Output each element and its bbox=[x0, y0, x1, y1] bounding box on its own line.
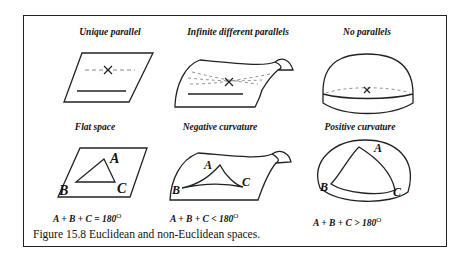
vertex-c-negative: C bbox=[242, 175, 251, 189]
equation-negative: A + B + C < 180O bbox=[170, 212, 238, 224]
vertex-a-flat: A bbox=[109, 151, 119, 166]
degree-symbol: O bbox=[376, 216, 381, 224]
negative-curvature-shape bbox=[170, 151, 291, 200]
degree-symbol: O bbox=[116, 212, 121, 220]
equation-flat-text: A + B + C = 180 bbox=[53, 214, 116, 224]
figure-caption: Figure 15.8 Euclidean and non-Euclidean … bbox=[33, 228, 260, 240]
degree-symbol: O bbox=[233, 212, 238, 220]
saddle-shape bbox=[175, 59, 293, 107]
equation-positive: A + B + C > 180O bbox=[313, 216, 381, 228]
vertex-b-negative: B bbox=[171, 183, 180, 197]
vertex-c-positive: C bbox=[393, 185, 402, 199]
vertex-a-negative: A bbox=[203, 158, 212, 172]
equation-positive-text: A + B + C > 180 bbox=[313, 218, 376, 228]
hemisphere-shape bbox=[323, 54, 413, 114]
flat-plane-shape bbox=[64, 53, 153, 102]
vertex-b-positive: B bbox=[319, 180, 328, 194]
vertex-c-flat: C bbox=[117, 181, 127, 196]
vertex-b-flat: B bbox=[58, 183, 68, 198]
equation-negative-text: A + B + C < 180 bbox=[170, 214, 233, 224]
vertex-a-positive: A bbox=[373, 141, 382, 155]
equation-flat: A + B + C = 180O bbox=[53, 212, 121, 224]
flat-triangle-shape bbox=[58, 148, 147, 197]
